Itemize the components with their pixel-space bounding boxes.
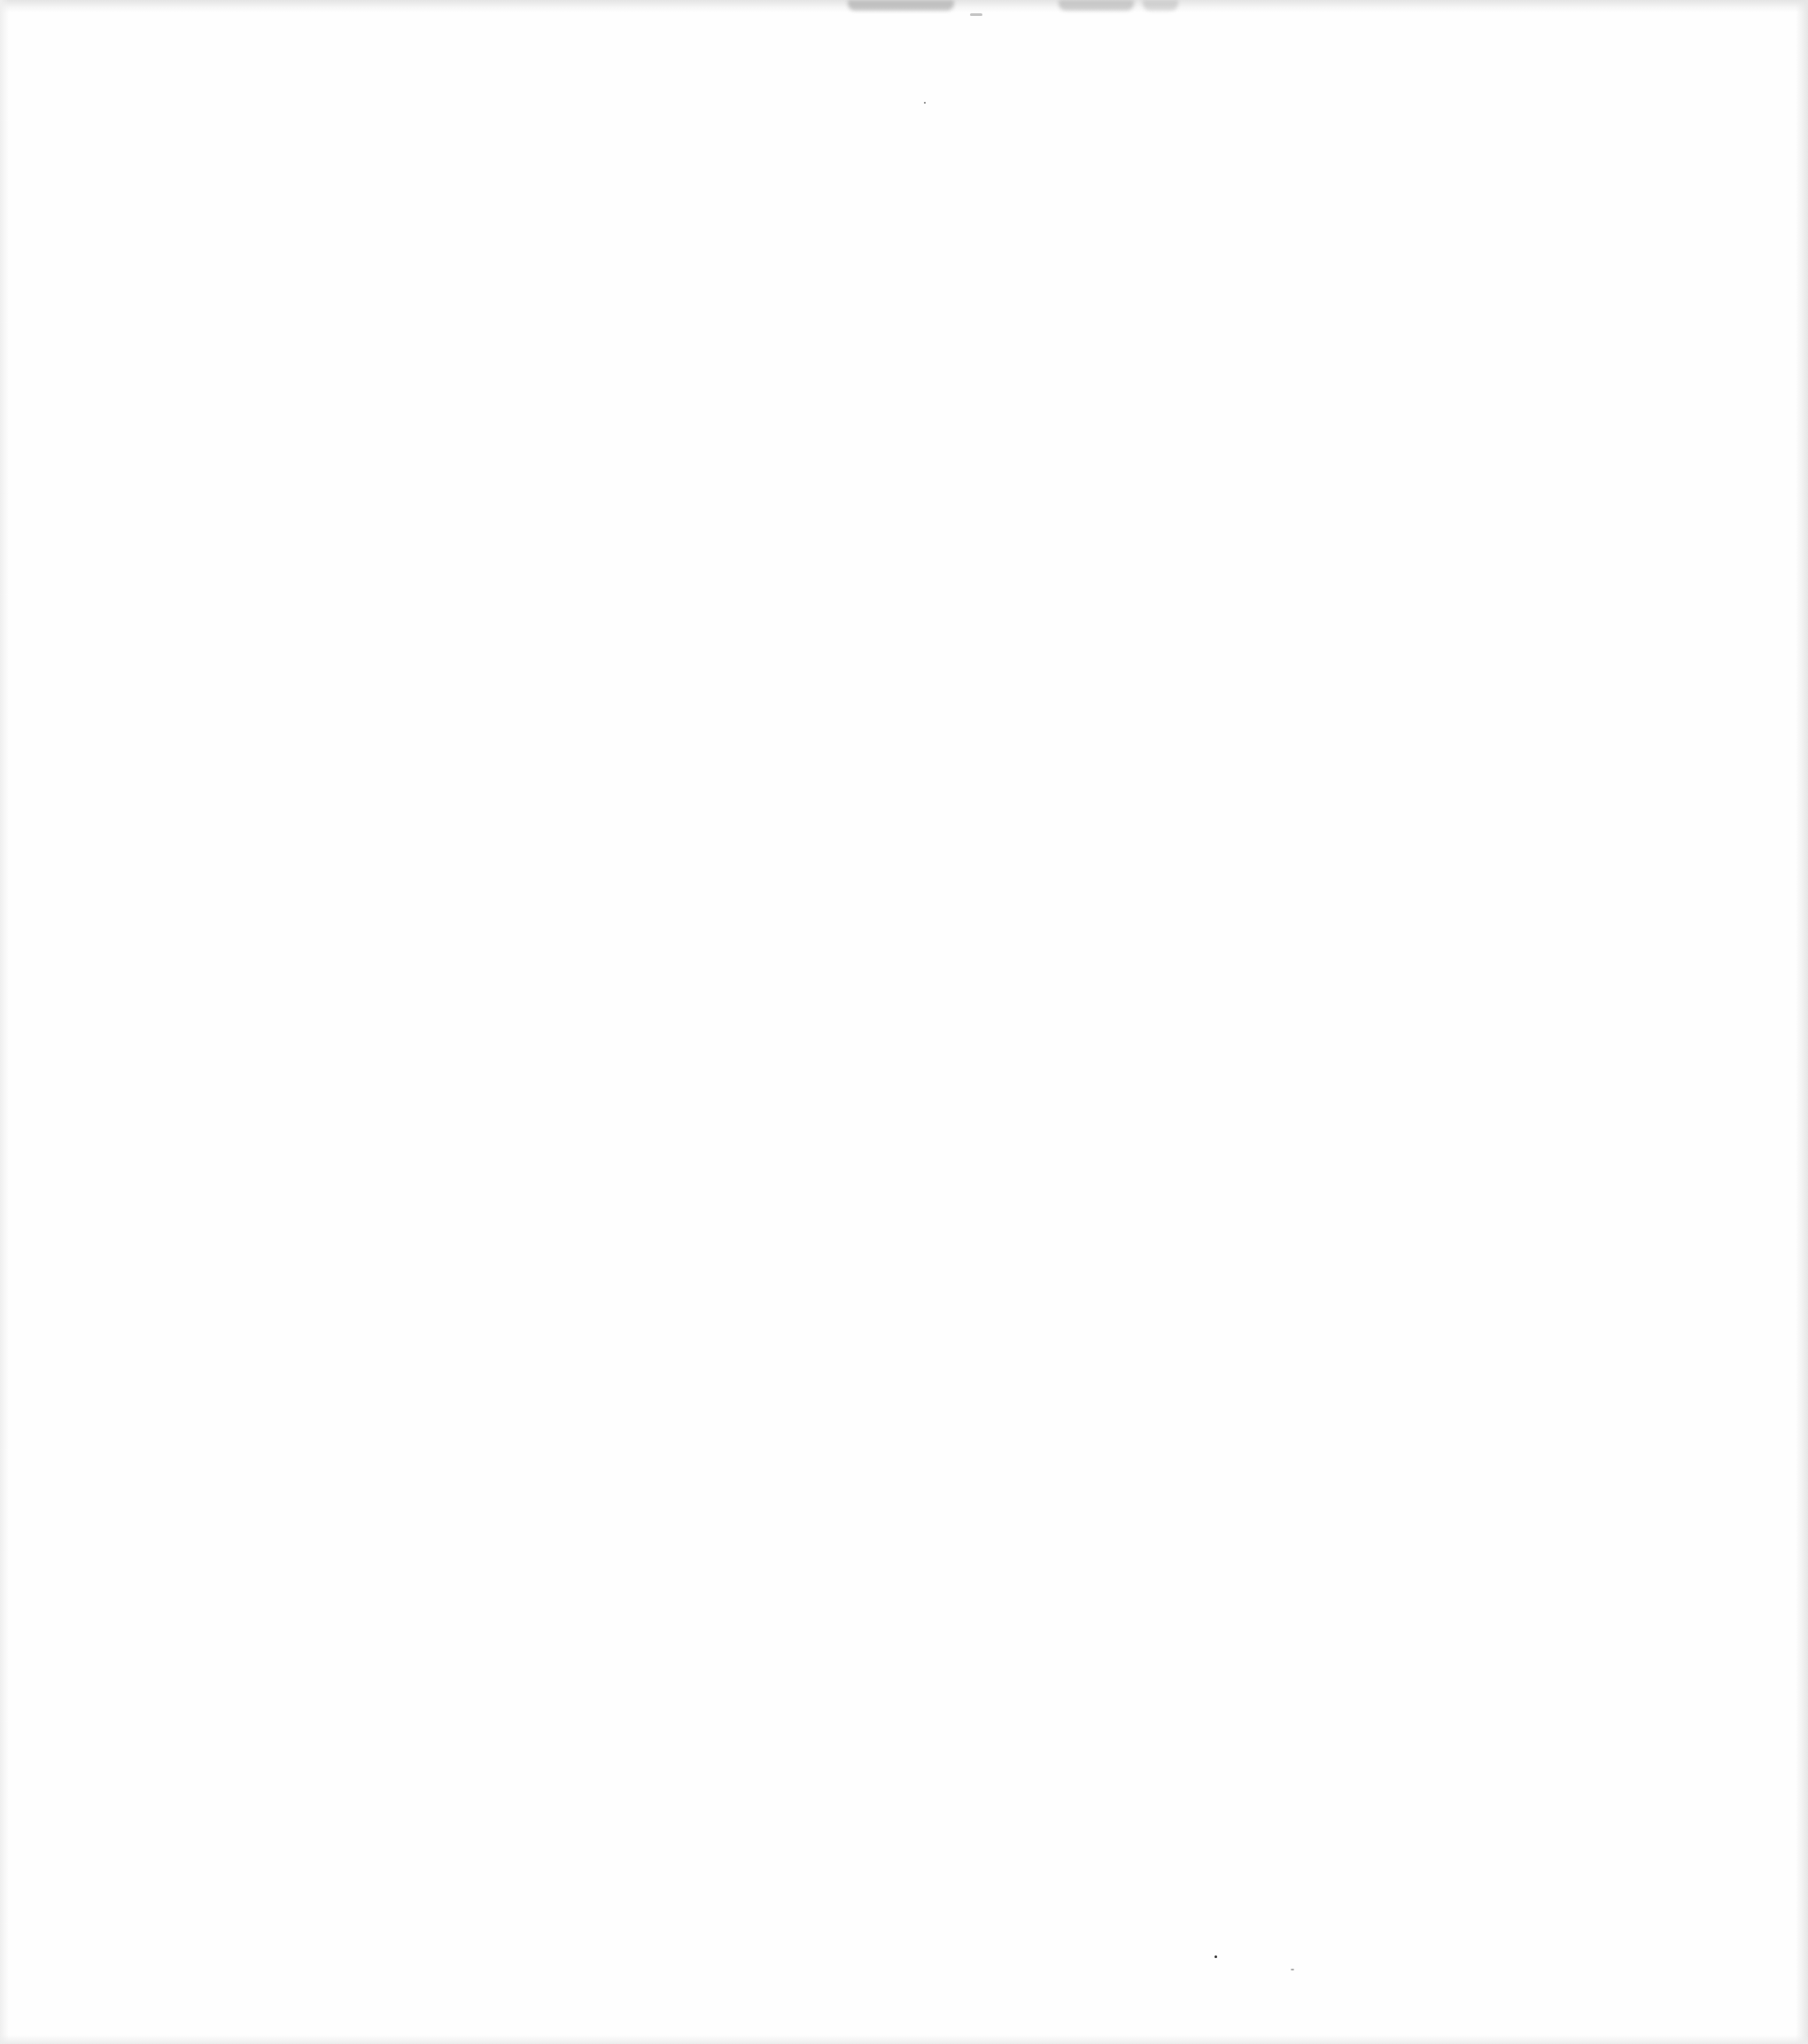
dust-speck	[924, 102, 926, 104]
top-ink-smudge	[1059, 0, 1134, 11]
left-scan-edge	[0, 0, 9, 2044]
top-ink-smudge	[1143, 0, 1178, 11]
blank-page	[0, 0, 1808, 2044]
right-scan-edge	[1796, 0, 1808, 2044]
ink-mark	[970, 13, 982, 16]
dust-speck	[1291, 1969, 1294, 1970]
top-ink-smudge	[848, 0, 954, 11]
bottom-scan-edge	[0, 2035, 1808, 2044]
dust-speck	[1214, 1955, 1217, 1958]
